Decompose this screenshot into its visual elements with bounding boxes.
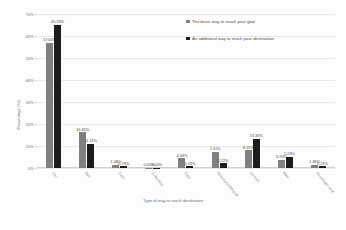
- y-axis-tick-label: 30%: [26, 100, 34, 105]
- x-axis-tick-label: Train: [183, 171, 192, 180]
- y-axis-tick-label: 40%: [26, 78, 34, 83]
- legend-label: The basic way to reach your goal: [192, 19, 255, 24]
- legend-item[interactable]: The basic way to reach your goal: [186, 19, 274, 24]
- bar-value-label: 4.44%: [177, 153, 188, 158]
- y-axis-tick-label: 0%: [28, 166, 34, 171]
- bar-group: 0.00%0.00%Trolleybus: [136, 14, 169, 168]
- y-axis-tick-mark: [35, 168, 37, 169]
- x-axis-tick-label: Car: [50, 171, 57, 178]
- bar[interactable]: 0.74%: [319, 166, 326, 168]
- x-axis-title: Type of way to reach destination: [0, 198, 346, 203]
- y-axis-tick-label: 70%: [26, 12, 34, 17]
- y-axis-title: Percentage (%): [16, 100, 21, 129]
- bar-value-label: 65.19%: [51, 19, 64, 24]
- bar-value-label: 0.74%: [317, 161, 328, 166]
- legend-label: An additional way to reach your destinat…: [192, 36, 274, 41]
- bar-group: 1.48%0.74%Tram: [103, 14, 136, 168]
- x-axis-tick-label: On foot: [249, 171, 260, 183]
- gridline: [37, 168, 335, 169]
- bar[interactable]: 5.19%: [286, 157, 293, 168]
- bar-value-label: 0.74%: [185, 161, 196, 166]
- bar-value-label: 2.22%: [218, 158, 229, 163]
- bar[interactable]: 0.74%: [186, 166, 193, 168]
- x-axis-tick-label: Trolleybus: [150, 171, 164, 187]
- bar[interactable]: 0.74%: [120, 166, 127, 168]
- bar[interactable]: 3.70%: [278, 160, 285, 168]
- y-axis-tick-label: 50%: [26, 56, 34, 61]
- bar[interactable]: 0.00%: [145, 168, 152, 169]
- bar-value-label: 11.11%: [84, 138, 96, 143]
- bar-group: 57.04%65.19%Car: [37, 14, 70, 168]
- bar[interactable]: 0.00%: [153, 168, 160, 169]
- y-axis-tick-label: 20%: [26, 122, 34, 127]
- bar-group: 1.48%0.74%Passenger seat: [302, 14, 335, 168]
- bar-chart: Percentage (%) 0%10%20%30%40%50%60%70% 5…: [0, 0, 346, 230]
- y-axis-tick-label: 60%: [26, 34, 34, 39]
- legend-item[interactable]: An additional way to reach your destinat…: [186, 36, 274, 41]
- legend-swatch: [186, 20, 190, 24]
- bar[interactable]: 65.19%: [54, 25, 61, 168]
- bar[interactable]: 57.04%: [46, 43, 53, 168]
- x-axis-tick-label: Bus: [84, 171, 91, 179]
- bar-value-label: 16.30%: [76, 127, 89, 132]
- x-axis-tick-label: Bike: [282, 171, 290, 179]
- x-axis-tick-label: Motorcycle/Moped: [216, 171, 239, 197]
- x-axis-tick-label: Passenger seat: [315, 171, 335, 194]
- bar-group: 16.30%11.11%Bus: [70, 14, 103, 168]
- bar-value-label: 0.00%: [151, 162, 162, 167]
- x-axis-tick-label: Tram: [117, 171, 126, 180]
- bar-value-label: 5.19%: [284, 151, 295, 156]
- bar-value-label: 7.41%: [210, 146, 221, 151]
- bar-value-label: 13.33%: [250, 133, 263, 138]
- legend: The basic way to reach your goalAn addit…: [186, 19, 274, 41]
- bar-value-label: 0.74%: [118, 161, 129, 166]
- bar[interactable]: 13.33%: [253, 139, 260, 168]
- bar[interactable]: 2.22%: [220, 163, 227, 168]
- bar[interactable]: 11.11%: [87, 144, 94, 168]
- legend-swatch: [186, 37, 190, 41]
- y-axis-tick-label: 10%: [26, 144, 34, 149]
- bar[interactable]: 8.15%: [245, 150, 252, 168]
